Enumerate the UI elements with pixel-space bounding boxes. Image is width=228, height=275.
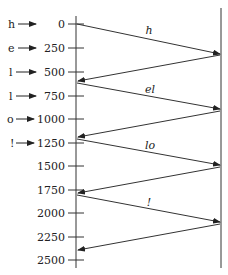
segment-label: ! [147, 196, 151, 209]
tick-label: 2500 [37, 254, 65, 267]
tick-labels: 0 250 500 750 1000 1250 1500 1750 2000 2… [37, 18, 65, 267]
tick-label: 1000 [37, 113, 65, 126]
tick-label: 1500 [37, 160, 65, 173]
segment-label: el [145, 83, 156, 96]
return-arrow [78, 111, 220, 137]
input-char: l [9, 90, 13, 103]
input-char: h [8, 18, 15, 31]
input-char: e [8, 42, 15, 55]
tick-label: 500 [44, 66, 65, 79]
tick-label: 250 [44, 42, 65, 55]
tick-label: 1250 [37, 137, 65, 150]
segment-label: lo [145, 139, 156, 152]
tick-label: 750 [44, 90, 65, 103]
input-chars: h e l l o ! [7, 18, 36, 150]
tick-label: 0 [58, 18, 65, 31]
input-char: l [9, 66, 13, 79]
return-arrow [78, 167, 220, 193]
message-arrows [77, 24, 220, 250]
return-arrow [78, 224, 220, 250]
tick-label: 2000 [37, 207, 65, 220]
return-arrow [78, 55, 220, 81]
segment-label: h [145, 24, 152, 37]
input-char: ! [10, 137, 14, 150]
tick-label: 2250 [37, 231, 65, 244]
timing-diagram: 0 250 500 750 1000 1250 1500 1750 2000 2… [0, 0, 228, 275]
input-char: o [7, 113, 14, 126]
segment-labels: h el lo ! [145, 24, 156, 209]
tick-label: 1750 [37, 184, 65, 197]
